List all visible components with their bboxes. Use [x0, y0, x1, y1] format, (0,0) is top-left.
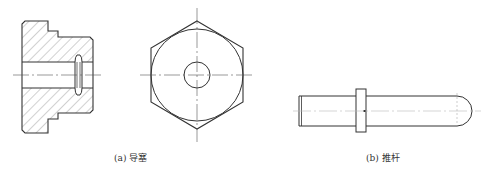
caption-guide-plug: (a) 导塞 [114, 151, 147, 164]
plug-end-view [140, 8, 252, 142]
technical-drawing [0, 0, 491, 175]
push-rod-view [293, 89, 481, 132]
plug-section-view [13, 21, 103, 133]
caption-push-rod: (b) 推杆 [366, 151, 400, 164]
collar-center-mark [364, 110, 366, 112]
